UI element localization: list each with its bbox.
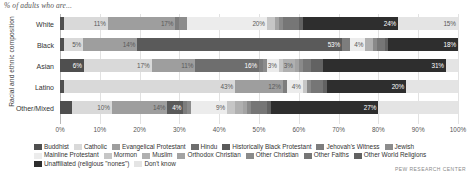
bar-segment[interactable]: 3% (283, 59, 295, 72)
legend-item-label: Other Faiths (314, 151, 349, 159)
bar-segment[interactable]: 20% (187, 17, 267, 30)
bar-segment[interactable]: 12% (235, 80, 283, 93)
bar-segment-value-label: 9% (216, 104, 227, 111)
legend-item[interactable]: Catholic (74, 143, 107, 151)
bar-row[interactable]: Asian6%17%11%16%3%3%31% (60, 59, 458, 72)
legend-swatch-icon (177, 153, 185, 159)
bar-segment-value-label: 43% (221, 83, 236, 90)
bar-segment[interactable] (303, 59, 311, 72)
bar-segment[interactable] (365, 38, 373, 51)
bar-segment-value-label: 12% (268, 83, 283, 90)
legend-swatch-icon (34, 161, 42, 167)
bar-segment-value-label: 3% (284, 62, 295, 69)
legend-item[interactable]: Muslim (142, 151, 172, 159)
bar-segment-value-label: 4% (172, 104, 183, 111)
bar-segment[interactable]: 31% (323, 59, 446, 72)
bar-segment[interactable] (406, 80, 458, 93)
bar-segment-value-label: 53% (328, 41, 343, 48)
legend-item-label: Catholic (84, 143, 107, 151)
legend-item[interactable]: Evangelical Protestant (112, 143, 186, 151)
bar-segment[interactable]: 11% (64, 17, 108, 30)
bar-segment-value-label: 11% (181, 62, 195, 69)
legend-item-label: Other Christian (256, 151, 299, 159)
x-axis-tick: 50% (253, 126, 266, 133)
x-axis-tick: 30% (173, 126, 186, 133)
bar-segment[interactable]: 10% (72, 101, 112, 114)
bar-segment[interactable]: 14% (112, 101, 168, 114)
legend-item[interactable]: Other Faiths (304, 151, 349, 159)
bar-segment[interactable]: 4% (287, 80, 303, 93)
bar-segment[interactable] (179, 17, 187, 30)
bar-segment-value-label: 16% (244, 62, 259, 69)
bar-segment[interactable] (378, 101, 458, 114)
bar-segment-value-label: 24% (384, 20, 399, 27)
bar-segment[interactable]: 14% (83, 38, 137, 51)
bar-segment[interactable] (227, 101, 235, 114)
legend-swatch-icon (246, 153, 254, 159)
bar-row-label: Other/Mixed (16, 104, 54, 111)
bar-segment[interactable]: 3% (267, 59, 279, 72)
bar-row[interactable]: White11%17%20%24%15% (60, 17, 458, 30)
bar-segment[interactable]: 17% (84, 59, 152, 72)
bar-segment-value-label: 17% (137, 62, 152, 69)
legend-item[interactable]: Don't know (134, 160, 175, 168)
bar-segment[interactable] (60, 101, 72, 114)
legend-item[interactable]: Historically Black Protestant (222, 143, 311, 151)
legend-swatch-icon (34, 153, 42, 159)
bar-segment[interactable] (446, 59, 458, 72)
x-axis-tick: 20% (133, 126, 146, 133)
bar-segment[interactable] (267, 17, 275, 30)
bar-segment[interactable]: 20% (327, 80, 407, 93)
bar-segment[interactable]: 4% (350, 38, 365, 51)
bar-segment[interactable] (342, 38, 350, 51)
legend-item-label: Historically Black Protestant (232, 143, 311, 151)
bar-segment[interactable]: 43% (64, 80, 235, 93)
bar-segment[interactable]: 15% (398, 17, 458, 30)
bar-segment[interactable] (251, 101, 267, 114)
bar-segment-value-label: 18% (444, 41, 459, 48)
bar-segment-value-label: 27% (364, 104, 379, 111)
bar-row[interactable]: Other/Mixed10%14%4%9%27% (60, 101, 458, 114)
legend-item-label: Jewish (395, 143, 415, 151)
bar-segment[interactable]: 24% (303, 17, 399, 30)
legend-item[interactable]: Other World Religions (354, 151, 426, 159)
legend-item-label: Other World Religions (364, 151, 426, 159)
bar-row[interactable]: Black5%14%53%4%18% (60, 38, 458, 51)
bar-segment[interactable] (283, 17, 299, 30)
legend-item[interactable]: Mainline Protestant (34, 151, 99, 159)
bar-segment[interactable] (311, 59, 323, 72)
bar-row[interactable]: Latino43%12%4%20% (60, 80, 458, 93)
legend-item[interactable]: Unaffiliated (religious "nones") (34, 160, 129, 168)
legend-item-label: Mainline Protestant (44, 151, 99, 159)
bar-segment[interactable] (311, 80, 323, 93)
bar-segment[interactable]: 18% (388, 38, 458, 51)
legend-item[interactable]: Mormon (104, 151, 137, 159)
x-axis-tick: 70% (332, 126, 345, 133)
legend-item-label: Evangelical Protestant (122, 143, 186, 151)
bar-segment[interactable]: 6% (60, 59, 84, 72)
legend-item[interactable]: Jewish (385, 143, 415, 151)
bar-segment[interactable]: 5% (64, 38, 83, 51)
bar-segment[interactable]: 11% (152, 59, 196, 72)
bar-segment[interactable]: 27% (271, 101, 378, 114)
bar-segment[interactable]: 16% (195, 59, 259, 72)
legend-item[interactable]: Buddhist (34, 143, 69, 151)
legend-swatch-icon (304, 153, 312, 159)
bar-rows: White11%17%20%24%15%Black5%14%53%4%18%As… (60, 14, 458, 124)
bar-segment[interactable]: 53% (137, 38, 342, 51)
legend-item[interactable]: Other Christian (246, 151, 299, 159)
legend-item-label: Mormon (114, 151, 137, 159)
bar-segment[interactable] (377, 38, 385, 51)
legend-swatch-icon (74, 144, 82, 150)
plot-area: White11%17%20%24%15%Black5%14%53%4%18%As… (60, 14, 458, 124)
legend-item[interactable]: Jehovah's Witness (316, 143, 379, 151)
legend-item-label: Orthodox Christian (187, 151, 240, 159)
bar-row-label: White (36, 20, 54, 27)
bar-segment[interactable]: 9% (191, 101, 227, 114)
bar-segment[interactable] (235, 101, 243, 114)
legend-item[interactable]: Orthodox Christian (177, 151, 240, 159)
bar-segment[interactable]: 17% (108, 17, 176, 30)
bar-segment-value-label: 6% (73, 62, 84, 69)
bar-segment[interactable]: 4% (167, 101, 183, 114)
legend-item[interactable]: Hindu (191, 143, 218, 151)
